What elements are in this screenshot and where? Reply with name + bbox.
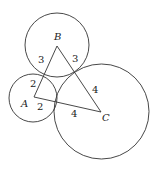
segment-label-ac-near-c: 4: [71, 108, 77, 119]
vertex-label-c: C: [102, 112, 110, 123]
edge-bc: [57, 46, 101, 112]
segment-label-ab-near-b: 3: [38, 54, 44, 65]
segment-label-ac-near-a: 2: [37, 101, 43, 112]
segment-label-bc-near-c: 4: [92, 84, 98, 95]
segment-label-ab-near-a: 2: [30, 78, 36, 89]
vertex-label-a: A: [20, 98, 28, 109]
edge-ac: [34, 97, 101, 112]
circle-b: [25, 13, 89, 77]
segment-label-bc-near-b: 3: [72, 53, 78, 64]
vertex-label-b: B: [53, 31, 61, 42]
tangent-circles-diagram: B A C 3 3 2 2 4 4: [0, 0, 156, 172]
